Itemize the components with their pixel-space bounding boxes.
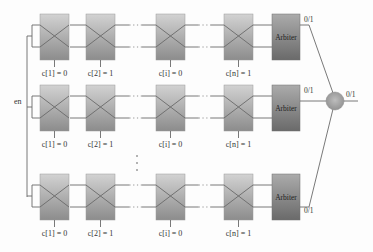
output-wire <box>300 25 333 93</box>
arbiter-block: Arbiter <box>272 85 300 131</box>
enable-label: en <box>14 97 22 106</box>
vertical-ellipsis-dot <box>136 155 138 157</box>
vertical-ellipsis-dot <box>136 169 138 171</box>
arbiter-label: Arbiter <box>275 193 297 202</box>
diagram-canvas: c[1] = 0c[2] = 1c[i] = 0c[n] = 1Arbiter0… <box>0 0 373 252</box>
switch-stage-n: c[n] = 1 <box>224 14 253 78</box>
input-split-wire <box>32 185 40 207</box>
input-split-wire <box>32 25 40 47</box>
switch-stage-2: c[2] = 1 <box>86 14 115 78</box>
arbiter-label: Arbiter <box>275 104 297 113</box>
switch-stage-2: c[2] = 1 <box>86 174 115 238</box>
arbiter-block: Arbiter <box>272 14 300 60</box>
arbiter-output-label: 0/1 <box>304 86 314 95</box>
challenge-label: c[i] = 0 <box>159 140 183 149</box>
challenge-label: c[n] = 1 <box>226 69 251 78</box>
switch-stage-i: c[i] = 0 <box>156 14 185 78</box>
xor-gate-icon <box>326 92 344 110</box>
challenge-label: c[1] = 0 <box>42 140 67 149</box>
switch-box <box>156 14 185 60</box>
switch-box <box>86 14 115 60</box>
challenge-label: c[i] = 0 <box>159 69 183 78</box>
enable-bus: en <box>14 36 138 197</box>
challenge-label: c[2] = 1 <box>88 140 113 149</box>
arbiter-puf-diagram: c[1] = 0c[2] = 1c[i] = 0c[n] = 1Arbiter0… <box>0 0 373 252</box>
arbiter-label: Arbiter <box>275 33 297 42</box>
switch-box <box>40 85 69 131</box>
switch-stage-n: c[n] = 1 <box>224 174 253 238</box>
input-split-wire <box>32 96 40 118</box>
switch-box <box>224 14 253 60</box>
switch-box <box>86 174 115 220</box>
puf-rows: c[1] = 0c[2] = 1c[i] = 0c[n] = 1Arbiter0… <box>32 14 333 238</box>
switch-stage-i: c[i] = 0 <box>156 85 185 149</box>
vertical-ellipsis-dot <box>136 162 138 164</box>
switch-stage-1: c[1] = 0 <box>40 85 69 149</box>
switch-box <box>156 85 185 131</box>
switch-stage-n: c[n] = 1 <box>224 85 253 149</box>
switch-box <box>156 174 185 220</box>
switch-stage-1: c[1] = 0 <box>40 14 69 78</box>
switch-box <box>224 174 253 220</box>
puf-row-2: c[1] = 0c[2] = 1c[i] = 0c[n] = 1Arbiter0… <box>32 85 326 149</box>
arbiter-output-label: 0/1 <box>304 15 314 24</box>
switch-stage-i: c[i] = 0 <box>156 174 185 238</box>
challenge-label: c[2] = 1 <box>88 69 113 78</box>
puf-row-1: c[1] = 0c[2] = 1c[i] = 0c[n] = 1Arbiter0… <box>32 14 333 93</box>
switch-box <box>40 174 69 220</box>
switch-stage-2: c[2] = 1 <box>86 85 115 149</box>
switch-box <box>40 14 69 60</box>
challenge-label: c[i] = 0 <box>159 229 183 238</box>
challenge-label: c[1] = 0 <box>42 229 67 238</box>
switch-box <box>224 85 253 131</box>
switch-stage-1: c[1] = 0 <box>40 174 69 238</box>
challenge-label: c[n] = 1 <box>226 229 251 238</box>
challenge-label: c[2] = 1 <box>88 229 113 238</box>
xor-output-label: 0/1 <box>346 90 356 99</box>
arbiter-block: Arbiter <box>272 174 300 220</box>
xor-combiner: 0/1 <box>326 90 358 110</box>
challenge-label: c[n] = 1 <box>226 140 251 149</box>
challenge-label: c[1] = 0 <box>42 69 67 78</box>
output-wire <box>300 109 333 207</box>
switch-box <box>86 85 115 131</box>
